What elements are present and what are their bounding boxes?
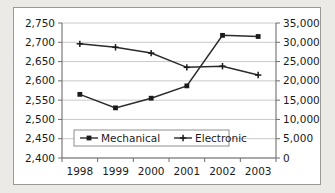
y-left-tick-label: 2,400 (25, 152, 55, 164)
data-point-mechanical (77, 92, 82, 97)
y-right-tick-label: 30,000 (283, 36, 320, 48)
y-left-tick-label: 2,750 (25, 17, 55, 29)
data-point-mechanical (220, 33, 225, 38)
y-left-tick-label: 2,700 (25, 36, 55, 48)
data-point-mechanical (184, 83, 189, 88)
x-tick-label: 2000 (138, 165, 165, 177)
legend-label-mechanical: Mechanical (101, 132, 160, 144)
y-left-tick-label: 2,550 (25, 94, 55, 106)
y-left-tick-label: 2,650 (25, 55, 55, 67)
x-tick-label: 2001 (173, 165, 200, 177)
x-tick-label: 1998 (66, 165, 93, 177)
legend-label-electronic: Electronic (195, 132, 247, 144)
y-right-tick-label: 20,000 (283, 74, 320, 86)
data-point-mechanical (149, 96, 154, 101)
chart-panel: 2,7502,7002,6502,6002,5502,5002,4502,400… (13, 7, 321, 185)
y-left-tick-label: 2,500 (25, 113, 55, 125)
y-left-tick-label: 2,600 (25, 74, 55, 86)
data-point-mechanical (113, 105, 118, 110)
y-right-tick-label: 35,000 (283, 17, 320, 29)
legend-marker-square-icon (87, 136, 92, 141)
series-line-electronic (80, 44, 258, 75)
line-chart: 2,7502,7002,6502,6002,5502,5002,4502,400… (14, 8, 320, 184)
y-right-tick-label: 10,000 (283, 113, 320, 125)
y-left-tick-label: 2,450 (25, 132, 55, 144)
chart-plot-area: 2,7502,7002,6502,6002,5502,5002,4502,400… (14, 8, 320, 184)
y-right-tick-label: 5,000 (283, 132, 313, 144)
data-point-mechanical (256, 34, 261, 39)
y-right-tick-label: 25,000 (283, 55, 320, 67)
y-right-tick-label: 0 (283, 152, 290, 164)
x-tick-label: 2002 (209, 165, 236, 177)
x-tick-label: 2003 (245, 165, 272, 177)
x-tick-label: 1999 (102, 165, 129, 177)
y-right-tick-label: 15,000 (283, 94, 320, 106)
